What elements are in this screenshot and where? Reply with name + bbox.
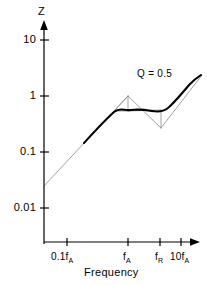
y-tick-label-1: 1 xyxy=(4,90,36,101)
x-tick-label-fr-sub: R xyxy=(158,257,163,264)
y-axis-label: Z xyxy=(38,6,45,17)
impedance-curve xyxy=(84,75,201,143)
x-tick-label-fa: fA xyxy=(123,252,131,264)
x-tick-label-0p1fa-base: 0.1f xyxy=(51,251,68,262)
q-factor-annotation: Q = 0.5 xyxy=(137,69,172,79)
x-tick-label-10fa-sub: A xyxy=(185,257,190,264)
x-axis-label: Frequency xyxy=(84,267,139,278)
high-frequency-asymptote xyxy=(161,75,202,128)
x-tick-label-0p1fa-sub: A xyxy=(68,257,73,264)
x-tick-label-fa-sub: A xyxy=(126,257,131,264)
x-tick-label-10fa: 10fA xyxy=(170,252,189,264)
x-axis xyxy=(44,238,194,246)
y-tick-label-0p1: 0.1 xyxy=(2,146,36,157)
y-tick-label-0p01: 0.01 xyxy=(0,202,36,213)
y-axis xyxy=(40,26,49,244)
chart-figure: Z 10 1 0.1 0.01 0.1fA fA fR 10fA Frequen… xyxy=(0,0,207,285)
y-axis-arrowhead xyxy=(40,20,48,30)
x-tick-label-0p1fa: 0.1fA xyxy=(51,252,73,264)
asymptote-lines xyxy=(44,75,202,186)
x-tick-label-10fa-base: 10f xyxy=(170,251,185,262)
y-tick-label-10: 10 xyxy=(4,34,36,45)
x-tick-label-fr: fR xyxy=(155,252,163,264)
x-axis-arrowhead xyxy=(190,238,200,246)
